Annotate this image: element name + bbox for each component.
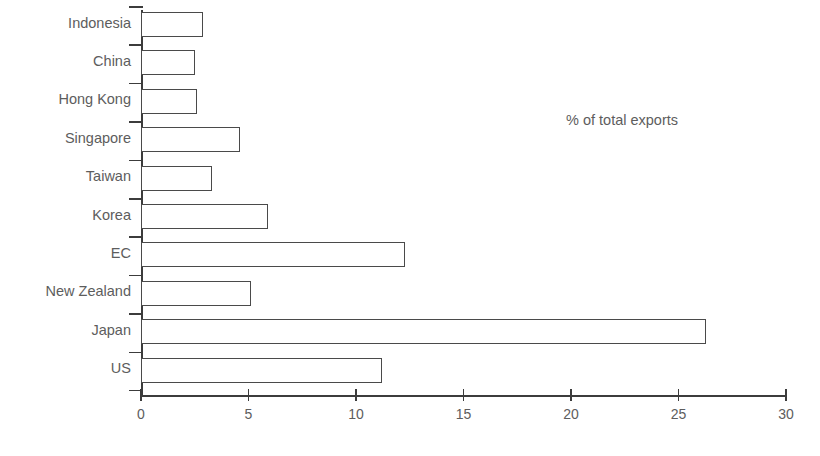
category-label: Japan: [0, 322, 131, 338]
y-axis-tick: [129, 352, 143, 354]
bar-chart: 051015202530 IndonesiaChinaHong KongSing…: [0, 0, 820, 456]
bar: [141, 242, 405, 267]
x-axis-tick: [140, 389, 142, 401]
x-axis-tick: [355, 389, 357, 401]
category-label: US: [0, 360, 131, 376]
category-label: Taiwan: [0, 168, 131, 184]
y-axis-tick: [129, 275, 143, 277]
bar: [141, 12, 203, 37]
bar: [141, 50, 195, 75]
y-axis-tick: [129, 6, 143, 8]
bar: [141, 166, 212, 191]
x-axis-tick: [248, 389, 250, 401]
x-axis-tick: [570, 389, 572, 401]
category-label: Singapore: [0, 130, 131, 146]
bar: [141, 281, 251, 306]
y-axis-tick: [129, 160, 143, 162]
x-axis-tick: [463, 389, 465, 401]
units-annotation: % of total exports: [566, 112, 678, 128]
category-label: Indonesia: [0, 15, 131, 31]
category-label: EC: [0, 245, 131, 261]
y-axis-tick: [129, 313, 143, 315]
y-axis-tick: [129, 121, 143, 123]
plot-area: 051015202530 IndonesiaChinaHong KongSing…: [0, 0, 820, 456]
bar: [141, 204, 268, 229]
bar: [141, 358, 382, 383]
category-label: China: [0, 53, 131, 69]
x-axis-tick-label: 10: [348, 406, 364, 422]
x-axis-tick-label: 30: [778, 406, 794, 422]
x-axis-tick-label: 20: [563, 406, 579, 422]
bar: [141, 319, 706, 344]
y-axis-tick: [129, 44, 143, 46]
y-axis-tick: [129, 236, 143, 238]
x-axis-tick-label: 5: [245, 406, 253, 422]
y-axis-tick: [129, 83, 143, 85]
x-axis-tick: [678, 389, 680, 401]
category-label: New Zealand: [0, 283, 131, 299]
x-axis-tick: [785, 389, 787, 401]
x-axis-tick-label: 25: [671, 406, 687, 422]
x-axis-tick-label: 15: [456, 406, 472, 422]
category-label: Hong Kong: [0, 91, 131, 107]
category-label: Korea: [0, 207, 131, 223]
x-axis-tick-label: 0: [137, 406, 145, 422]
y-axis-tick: [129, 198, 143, 200]
bar: [141, 127, 240, 152]
bar: [141, 89, 197, 114]
